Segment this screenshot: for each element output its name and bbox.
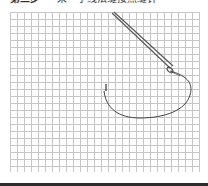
- bottom-border: [0, 183, 208, 186]
- thread-curve: [104, 71, 191, 118]
- needle-icon: [112, 12, 180, 76]
- stitch-diagram: [0, 0, 208, 186]
